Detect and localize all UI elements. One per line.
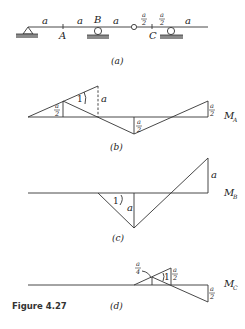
- ordinate-label-half: a 2: [136, 118, 142, 134]
- pin-support-icon: [16, 27, 38, 38]
- span-label: a: [113, 15, 119, 26]
- roller-support-c-icon: [160, 27, 183, 39]
- svg-text:a: a: [160, 11, 164, 19]
- figure-caption: Figure 4.27: [12, 301, 67, 311]
- point-label-a: A: [58, 30, 66, 41]
- svg-text:a: a: [142, 11, 146, 19]
- height-label: a: [211, 169, 217, 180]
- depth-label: a: [127, 202, 133, 213]
- il-subscript: A: [232, 116, 238, 123]
- ordinate-label-half: a 2: [209, 285, 215, 301]
- slope-arrow-icon: [84, 92, 86, 104]
- ordinate-label-half: a 2: [54, 102, 60, 118]
- height-label: a: [101, 93, 107, 104]
- ordinate-label-half: a 2: [209, 102, 215, 118]
- svg-text:2: 2: [209, 110, 214, 118]
- svg-text:a: a: [136, 260, 140, 268]
- svg-text:a: a: [137, 118, 141, 126]
- svg-text:a: a: [210, 102, 214, 110]
- svg-text:2: 2: [136, 126, 141, 134]
- il-segment: [63, 101, 208, 134]
- figure-canvas: a a a a 2 a 2 a A B C (a) 1 a a: [0, 0, 245, 329]
- svg-text:2: 2: [141, 19, 146, 27]
- svg-text:a: a: [210, 285, 214, 293]
- influence-line-ma: 1 a a 2 a 2 a 2 M A (b): [28, 86, 238, 152]
- slope-label: 1: [164, 272, 170, 282]
- svg-text:2: 2: [209, 293, 214, 301]
- span-label-half: a 2: [159, 11, 165, 27]
- influence-line-mb: 1 a a M B (c): [28, 158, 238, 243]
- span-label: a: [77, 15, 83, 26]
- panel-label-c: (c): [112, 233, 125, 243]
- panel-label-a: (a): [111, 56, 124, 66]
- il-subscript: B: [232, 193, 238, 200]
- il-subscript: C: [233, 284, 238, 291]
- internal-hinge-icon: [131, 24, 136, 29]
- slope-label: 1: [113, 196, 119, 206]
- svg-text:2: 2: [172, 274, 177, 282]
- ordinate-label-half: a 2: [172, 266, 178, 282]
- panel-label-d: (d): [110, 301, 123, 311]
- panel-label-b: (b): [110, 142, 123, 152]
- svg-text:2: 2: [54, 110, 59, 118]
- slope-label: 1: [77, 94, 83, 104]
- svg-text:4: 4: [135, 268, 140, 276]
- span-label: a: [42, 15, 48, 26]
- svg-text:a: a: [55, 102, 59, 110]
- svg-text:a: a: [173, 266, 177, 274]
- span-label: a: [185, 15, 191, 26]
- il-segment: [152, 277, 208, 302]
- ordinate-label-quarter: a 4: [135, 260, 141, 276]
- beam-diagram: a a a a 2 a 2 a A B C (a): [16, 11, 208, 66]
- leader-arrow-icon: [142, 271, 151, 278]
- svg-text:2: 2: [159, 19, 164, 27]
- slope-arrow-icon: [120, 195, 122, 205]
- point-label-c: C: [149, 30, 157, 41]
- roller-support-b-icon: [87, 27, 109, 39]
- span-label-half: a 2: [141, 11, 147, 27]
- point-label-b: B: [93, 14, 101, 25]
